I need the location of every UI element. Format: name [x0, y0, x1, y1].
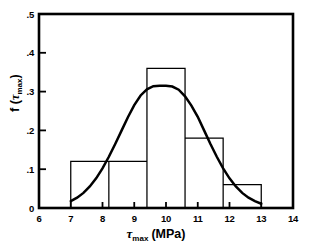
y-axis-title-suffix: ) [8, 74, 22, 78]
y-axis-title-symbol: τ [8, 95, 22, 101]
x-tick-label: 7 [68, 213, 73, 224]
x-axis-title-unit: (MPa) [151, 227, 185, 241]
y-tick-label: 0 [29, 203, 34, 214]
x-axis-title: τmax (MPa) [0, 226, 312, 243]
x-tick-label: 9 [132, 213, 137, 224]
x-axis-title-subscript: max [132, 234, 148, 243]
y-tick-label: .1 [26, 164, 34, 175]
y-axis-title: f (τmax) [8, 33, 24, 153]
x-tick-label: 13 [256, 213, 266, 224]
y-tick-label: .5 [26, 9, 34, 20]
plot-frame [39, 14, 293, 208]
y-axis-tick-labels: 0.1.2.3.4.5 [26, 9, 34, 214]
x-tick-label: 10 [161, 213, 171, 224]
y-tick-label: .4 [26, 47, 34, 58]
x-tick-label: 6 [36, 213, 41, 224]
y-tick-label: .3 [26, 86, 34, 97]
y-axis-title-prefix: f ( [8, 100, 22, 112]
figure: 67891011121314 0.1.2.3.4.5 τmax (MPa) f … [0, 0, 312, 252]
x-tick-label: 12 [224, 213, 234, 224]
y-axis-title-subscript: max [15, 78, 24, 94]
x-axis-tick-labels: 67891011121314 [36, 213, 299, 224]
y-tick-label: .2 [26, 125, 34, 136]
x-tick-label: 8 [100, 213, 105, 224]
x-tick-label: 14 [288, 213, 299, 224]
chart-canvas: 67891011121314 0.1.2.3.4.5 [0, 0, 312, 252]
x-tick-label: 11 [193, 213, 204, 224]
